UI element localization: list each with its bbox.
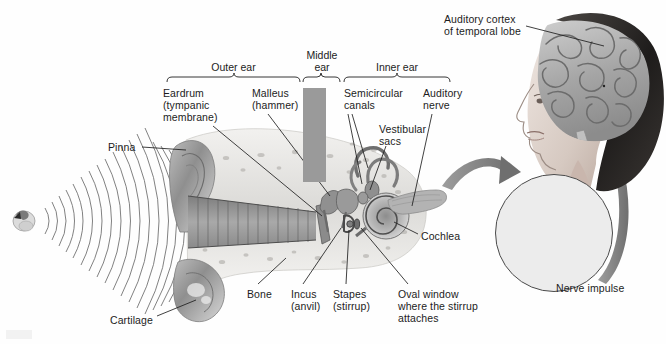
section-label-inner-ear: Inner ear	[344, 62, 450, 74]
label-nerve-impulse: Nerve impulse	[556, 283, 624, 295]
nerve-impulse-circle	[495, 174, 613, 292]
label-auditory-nerve: Auditory nerve	[423, 88, 462, 112]
label-stapes: Stapes (stirrup)	[333, 289, 370, 313]
label-eardrum: Eardrum (tympanic membrane)	[163, 88, 218, 123]
label-malleus: Malleus (hammer)	[252, 88, 298, 112]
label-pinna: Pinna	[108, 142, 135, 154]
section-label-outer-ear: Outer ear	[167, 62, 300, 74]
label-vestibular-sacs: Vestibular sacs	[379, 124, 426, 148]
page-corner-mark	[6, 330, 32, 339]
label-bone: Bone	[247, 289, 272, 301]
label-auditory-cortex: Auditory cortex of temporal lobe	[444, 14, 521, 38]
section-label-middle-ear: Middle ear	[296, 50, 348, 74]
label-cochlea: Cochlea	[421, 231, 460, 243]
sound-source-icon	[13, 211, 35, 231]
label-cartilage: Cartilage	[110, 315, 153, 327]
section-brackets	[167, 73, 450, 82]
label-incus: Incus (anvil)	[291, 289, 320, 313]
arrow-ear-to-impulse	[442, 156, 521, 190]
label-semicircular-canals: Semicircular canals	[344, 88, 403, 112]
middle-ear-highlight-bar	[303, 88, 326, 182]
ear-anatomy-figure: Outer ear Middle ear Inner ear Eardrum (…	[0, 0, 666, 344]
head-profile-with-brain	[517, 13, 664, 196]
label-oval-window: Oval window where the stirrup attaches	[398, 289, 478, 324]
